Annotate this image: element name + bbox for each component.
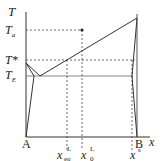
x0-sub: 0 <box>90 155 94 161</box>
y-axis-label: T <box>8 4 16 19</box>
x0-label: x <box>80 148 87 161</box>
xs-sup: s <box>138 146 141 154</box>
right-solidus-line <box>132 18 137 76</box>
tstar-label: T* <box>5 53 18 67</box>
xeq-sub: eq <box>64 155 71 161</box>
left-solidus-line <box>26 76 34 137</box>
liquidus-line <box>26 18 137 76</box>
right-solvus-line <box>132 76 137 137</box>
x-axis-label: x <box>148 135 155 149</box>
ta-label: Ta <box>5 23 16 39</box>
label-a: A <box>22 137 31 151</box>
xeq-label: x <box>56 148 63 161</box>
te-label: TE <box>5 68 17 84</box>
phase-diagram: T Ta T* TE A B x x L eq x L 0 x s <box>0 0 162 161</box>
x0-sup: L <box>90 145 94 153</box>
xs-label: x <box>129 148 136 161</box>
xeq-sup: L <box>67 145 71 153</box>
